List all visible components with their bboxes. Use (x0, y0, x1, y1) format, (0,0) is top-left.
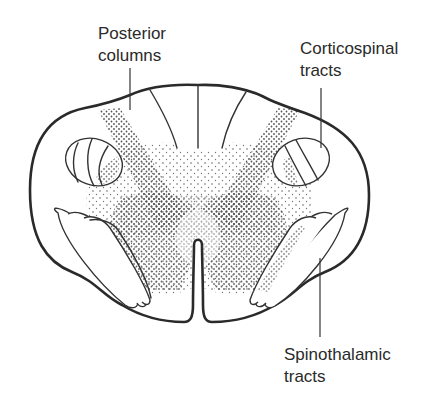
label-posterior-columns: Posterior columns (98, 23, 166, 67)
label-spinothalamic-tracts-line2: tracts (284, 366, 391, 388)
label-corticospinal-tracts: Corticospinal tracts (300, 38, 398, 82)
label-posterior-columns-line1: Posterior (98, 23, 166, 45)
label-corticospinal-tracts-line2: tracts (300, 60, 398, 82)
label-spinothalamic-tracts: Spinothalamic tracts (284, 344, 391, 388)
label-posterior-columns-line2: columns (98, 45, 166, 67)
label-corticospinal-tracts-line1: Corticospinal (300, 38, 398, 60)
label-spinothalamic-tracts-line1: Spinothalamic (284, 344, 391, 366)
